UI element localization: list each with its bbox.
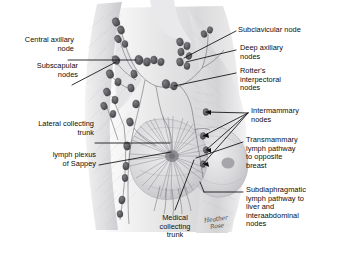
label-lateral-collecting-trunk: Lateral collecting trunk (8, 120, 94, 137)
leader-medical-collecting-trunk (175, 160, 194, 210)
leader-rotters-nodes (174, 73, 236, 86)
leader-subscapular-nodes (72, 62, 116, 85)
label-rotters-interpectoral-nodes: Rotter's interpectoral nodes (240, 67, 340, 93)
label-central-axillary-node: Central axillary node (6, 36, 74, 53)
leader-subclavicular-node (184, 31, 236, 58)
label-subdiaphragmatic-pathway: Subdiaphragmatic lymph pathway to liver … (246, 186, 348, 229)
label-subscapular-nodes: Subscapular nodes (6, 62, 78, 79)
leader-plexus-of-sappey (99, 152, 171, 165)
leader-transmammary-pathway (196, 142, 243, 158)
label-subclavicular-node: Subclavicular node (238, 26, 344, 35)
label-transmammary-pathway: Transmammary lymph pathway to opposite b… (246, 136, 346, 170)
leader-subdiaphragmatic-hook (200, 182, 204, 192)
leader-intermammary-1 (206, 112, 248, 113)
label-lymph-plexus-of-sappey: lymph plexus of Sappey (8, 151, 96, 168)
leader-arrowheads (203, 110, 211, 167)
leader-intermammary-4 (203, 113, 248, 164)
leader-deep-axillary-nodes (186, 50, 236, 62)
label-intermammary-nodes: Intermammary nodes (251, 107, 347, 124)
lymphatic-breast-illustration: Central axillary node Subscapular nodes … (0, 0, 348, 257)
label-deep-axillary-nodes: Deep axillary nodes (240, 44, 340, 61)
